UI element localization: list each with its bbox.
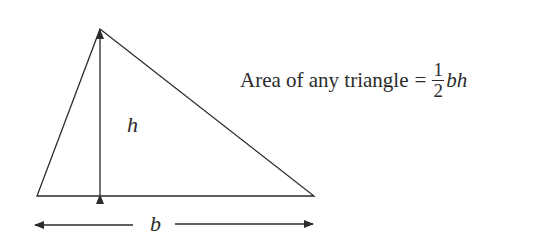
formula-text: Area of any triangle: [240, 68, 409, 93]
one-half-fraction: 1 2: [432, 60, 444, 101]
height-label: h: [127, 112, 138, 138]
equals-sign: =: [415, 68, 427, 93]
triangle-outline: [37, 29, 314, 196]
triangle-figure: [0, 0, 544, 240]
fraction-numerator: 1: [433, 60, 445, 80]
base-label: b: [150, 211, 161, 237]
formula-variables: bh: [446, 68, 467, 93]
fraction-denominator: 2: [433, 81, 445, 101]
area-formula: Area of any triangle = 1 2 bh: [240, 56, 467, 104]
